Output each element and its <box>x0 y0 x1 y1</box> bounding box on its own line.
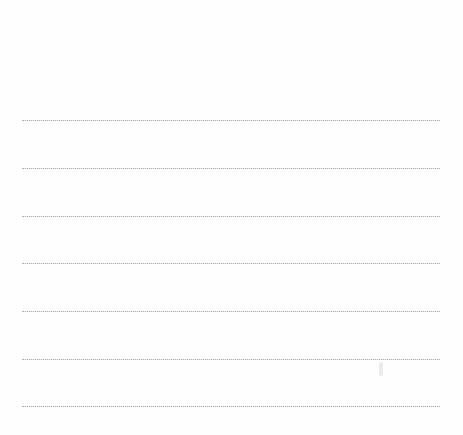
scan-artifact <box>379 362 383 376</box>
ruled-line-2 <box>22 168 440 169</box>
ruled-line-7 <box>22 406 440 407</box>
ruled-line-5 <box>22 311 440 312</box>
ruled-line-6 <box>22 359 440 360</box>
ruled-line-3 <box>22 216 440 217</box>
ruled-line-4 <box>22 263 440 264</box>
ruled-line-1 <box>22 120 440 121</box>
lined-paper-page <box>0 0 463 435</box>
